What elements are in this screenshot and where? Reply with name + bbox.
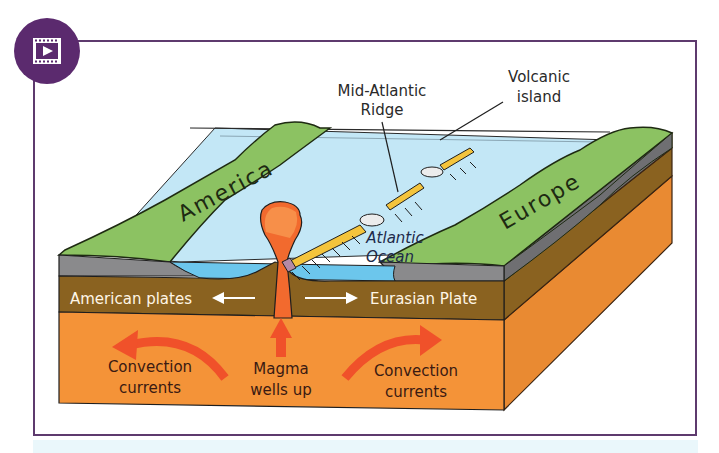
plate-tectonics-diagram: Mid-Atlantic Ridge Volcanic island Ameri… xyxy=(0,0,719,453)
island-callout-line xyxy=(440,102,503,140)
convection-right-line1: Convection xyxy=(374,362,458,380)
ridge-label-line1: Mid-Atlantic xyxy=(338,82,427,100)
eurasian-plate-label: Eurasian Plate xyxy=(370,290,477,308)
convection-left-line2: currents xyxy=(119,379,181,397)
video-badge-button[interactable] xyxy=(14,18,80,84)
volcanic-island-2 xyxy=(421,167,443,177)
convection-right-line2: currents xyxy=(385,383,447,401)
volcanic-island-1 xyxy=(360,214,384,226)
ridge-label-line2: Ridge xyxy=(361,101,404,119)
ocean-label-line2: Ocean xyxy=(366,248,414,266)
video-play-icon xyxy=(30,34,64,68)
american-plates-label: American plates xyxy=(70,290,192,308)
magma-label-line2: wells up xyxy=(250,381,311,399)
magma-label-line1: Magma xyxy=(253,360,308,378)
ocean-label-line1: Atlantic xyxy=(365,229,424,247)
convection-left-line1: Convection xyxy=(108,358,192,376)
island-label-line2: island xyxy=(517,88,561,106)
island-label-line1: Volcanic xyxy=(508,68,570,86)
